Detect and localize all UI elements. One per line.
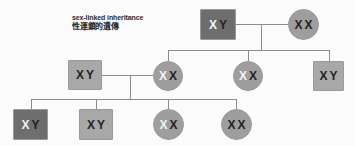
pedigree-symbol-g3-daughter-1[interactable]: X X	[153, 109, 184, 140]
sibling-drop-g3-daughter-1	[168, 99, 169, 109]
allele-x-2: X	[249, 70, 257, 82]
sibling-drop-g2-son	[329, 50, 330, 61]
pedigree-symbol-g2-daughter-2[interactable]: X X	[233, 61, 263, 91]
pedigree-diagram: sex-linked inheritance 性連鎖的遺傳 X Y X X X …	[0, 0, 355, 146]
pedigree-symbol-g1-mother[interactable]: X X	[288, 9, 319, 40]
title-english: sex-linked inheritance	[72, 14, 143, 22]
allele-x: X	[76, 69, 84, 81]
allele-x: X	[21, 119, 29, 131]
allele-y: Y	[86, 69, 94, 81]
allele-x: X	[87, 119, 95, 131]
allele-y: Y	[330, 70, 338, 82]
sibling-drop-g3-daughter-2	[236, 99, 237, 109]
pedigree-symbol-g3-son-2[interactable]: X Y	[79, 109, 113, 140]
allele-x: X	[294, 19, 302, 31]
allele-y: Y	[97, 119, 105, 131]
mating-line-gen1	[236, 24, 288, 25]
title-chinese: 性連鎖的遺傳	[72, 22, 143, 31]
allele-x: X	[319, 70, 327, 82]
diagram-title: sex-linked inheritance 性連鎖的遺傳	[72, 14, 143, 31]
pedigree-symbol-g3-daughter-2[interactable]: X X	[221, 109, 252, 140]
sibship-bar-gen3	[31, 99, 236, 100]
allele-x: X	[159, 70, 167, 82]
pedigree-symbol-g3-son-1[interactable]: X Y	[13, 109, 48, 140]
sibling-drop-g2-daughter-2	[248, 50, 249, 61]
allele-y: Y	[219, 19, 227, 31]
pedigree-symbol-g2-father[interactable]: X Y	[68, 60, 102, 90]
sibling-drop-g2-daughter-1	[168, 50, 169, 61]
sibling-drop-g3-son-2	[96, 99, 97, 109]
sibling-drop-g3-son-1	[31, 99, 32, 109]
descent-line-gen2	[130, 75, 131, 99]
pedigree-symbol-g2-son[interactable]: X Y	[313, 61, 344, 91]
allele-x-2: X	[238, 119, 246, 131]
allele-x: X	[209, 19, 217, 31]
pedigree-symbol-g2-daughter-1[interactable]: X X	[153, 61, 183, 91]
descent-line-gen1	[261, 24, 262, 50]
allele-x-2: X	[170, 119, 178, 131]
allele-x-2: X	[305, 19, 313, 31]
pedigree-symbol-g1-father[interactable]: X Y	[200, 9, 236, 40]
allele-x: X	[159, 119, 167, 131]
allele-y: Y	[32, 119, 40, 131]
allele-x-2: X	[169, 70, 177, 82]
allele-x: X	[227, 119, 235, 131]
allele-x: X	[239, 70, 247, 82]
